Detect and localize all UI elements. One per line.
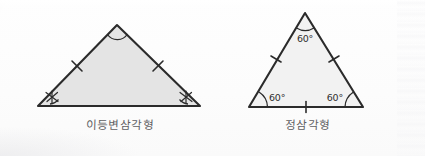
triangles-diagram: 60° 60° 60° [0, 0, 425, 156]
equilateral-triangle-shape [249, 13, 363, 107]
isosceles-triangle-caption: 이등변삼각형 [58, 116, 183, 132]
figure-page: 60° 60° 60° 이등변삼각형 정삼각형 [0, 0, 425, 156]
equilateral-apex-angle-label: 60° [297, 33, 313, 44]
equilateral-base-right-angle-label: 60° [327, 92, 343, 103]
isosceles-triangle-shape [38, 25, 200, 106]
equilateral-triangle-caption: 정삼각형 [246, 116, 371, 132]
equilateral-base-left-angle-label: 60° [269, 92, 285, 103]
equilateral-triangle-group: 60° 60° 60° [249, 13, 363, 113]
isosceles-triangle-group [38, 25, 200, 106]
